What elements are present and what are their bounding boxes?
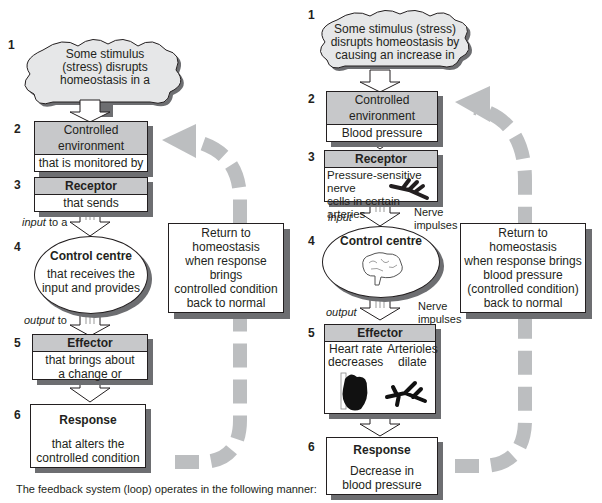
box-header: Receptor (325, 151, 437, 168)
nerve-impulses-label: Nerve impulses (414, 206, 457, 232)
return-to-homeostasis-note: Return to homeostasis when response brin… (460, 223, 586, 313)
arterioles-text: Arterioles dilate (387, 343, 438, 369)
controlled-environment-box: Controlled environment Blood pressure (326, 91, 438, 142)
step-number: 4 (308, 234, 315, 248)
box-header: Control centre (323, 234, 439, 248)
step-number: 5 (308, 326, 315, 340)
output-label: output (326, 306, 357, 319)
effector-box: Effector Heart rate decreases Arterioles… (324, 324, 436, 414)
box-body: Blood pressure (327, 125, 437, 141)
receptor-box: Receptor Pressure-sensitive nerve cells … (324, 150, 438, 202)
box-header: Response (327, 443, 437, 457)
input-label: input (328, 211, 352, 224)
artery-icon (389, 178, 433, 204)
step-number: 3 (308, 150, 315, 164)
arteriole-icon (385, 379, 431, 409)
response-box: Response Decrease in blood pressure (326, 437, 438, 495)
nerve-impulses-label: Nerve impulses (418, 300, 461, 326)
brain-icon (357, 251, 407, 287)
heart-rate-text: Heart rate decreases (328, 343, 383, 369)
control-centre-ellipse: Control centre (322, 226, 440, 298)
step-number: 6 (308, 440, 315, 454)
box-header: Effector (325, 325, 435, 342)
heart-icon (337, 369, 371, 413)
step-number: 2 (308, 92, 315, 106)
box-header: Controlled environment (327, 92, 437, 125)
